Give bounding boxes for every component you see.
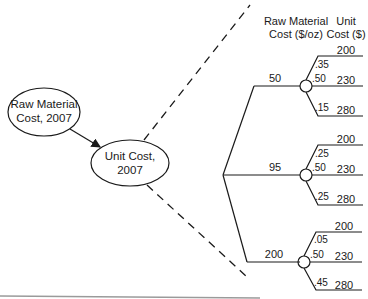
unit-cost-ellipse xyxy=(91,140,169,186)
chance-node-0 xyxy=(300,80,312,92)
diagram-canvas: Raw Material Cost, 2007 Unit Cost, 2007 … xyxy=(0,0,368,299)
influence-arrow xyxy=(70,129,100,147)
branch-1-outcome-1-prob: .50 xyxy=(312,162,326,173)
raw-material-node: Raw Material Cost, 2007 xyxy=(8,88,80,136)
header-unit-cost-line2: Cost ($) xyxy=(326,28,365,40)
branch-0-raw-cost: 50 xyxy=(269,72,281,84)
root-to-branch-0 xyxy=(223,86,254,175)
branch-1-raw-cost: 95 xyxy=(269,161,281,173)
unit-cost-label-line1: Unit Cost, xyxy=(105,150,156,162)
branch-1-outcome-2-prob: .25 xyxy=(315,191,329,202)
branch-0: 50 .35 .50 .15 200 230 280 xyxy=(269,44,363,116)
branch-2-outcome-2-prob: .45 xyxy=(314,277,328,288)
branch-2-outcome-0-prob: .05 xyxy=(314,234,328,245)
header-raw-material-line1: Raw Material xyxy=(264,15,328,27)
branch-0-outcome-1-cost: 230 xyxy=(337,74,355,86)
unit-cost-label-line2: 2007 xyxy=(117,164,143,176)
branch-1-outcome-2-cost: 280 xyxy=(337,193,355,205)
header-unit-cost-line1: Unit xyxy=(336,15,356,27)
branch-0-outcome-0-cost: 200 xyxy=(337,44,355,56)
branch-2-outcome-2-line xyxy=(304,268,362,290)
page-edge-line xyxy=(0,296,260,298)
raw-material-label-line2: Cost, 2007 xyxy=(16,112,72,124)
branch-1-outcome-1-cost: 230 xyxy=(337,163,355,175)
branch-2-outcome-1-cost: 230 xyxy=(335,250,353,262)
branch-1-outcome-0-prob: .25 xyxy=(315,148,329,159)
branch-2-outcome-2-cost: 280 xyxy=(335,279,353,291)
root-to-branch-2 xyxy=(223,175,247,262)
chance-node-1 xyxy=(300,169,312,181)
branch-0-outcome-1-prob: .50 xyxy=(312,73,326,84)
branch-0-outcome-0-prob: .35 xyxy=(315,59,329,70)
branch-1-outcome-0-cost: 200 xyxy=(337,133,355,145)
expansion-line-top xyxy=(144,5,250,140)
branch-0-outcome-2-prob: .15 xyxy=(315,102,329,113)
branch-0-outcome-2-cost: 280 xyxy=(337,104,355,116)
tree-root xyxy=(223,86,300,262)
unit-cost-node: Unit Cost, 2007 xyxy=(91,140,169,186)
header-raw-material-line2: Cost ($/oz) xyxy=(269,28,323,40)
raw-material-label-line1: Raw Material xyxy=(10,98,77,110)
branch-2-outcome-1-prob: .50 xyxy=(310,249,324,260)
branch-2-raw-cost: 200 xyxy=(265,248,283,260)
expansion-line-bottom xyxy=(147,185,246,276)
branch-2-outcome-0-cost: 200 xyxy=(335,220,353,232)
branch-2: 200 .05 .50 .45 200 230 280 xyxy=(265,220,362,291)
branch-1: 95 .25 .50 .25 200 230 280 xyxy=(269,133,363,205)
